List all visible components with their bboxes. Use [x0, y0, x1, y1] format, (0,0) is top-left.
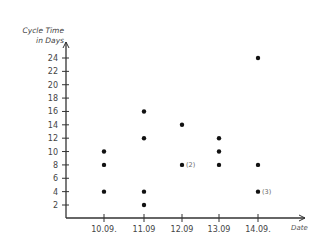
y-tick-label: 6 — [53, 174, 58, 183]
x-tick-label: 11.09 — [133, 225, 156, 234]
y-tick-label: 22 — [48, 67, 58, 76]
y-tick-label: 14 — [48, 121, 58, 130]
data-point — [102, 189, 106, 193]
x-tick-label: 10.09. — [91, 225, 116, 234]
data-point — [142, 109, 146, 113]
data-point — [102, 149, 106, 153]
point-count-annotation: (2) — [186, 161, 195, 169]
data-point — [256, 163, 260, 167]
y-tick-label: 4 — [53, 188, 58, 197]
point-count-annotation: (3) — [262, 188, 271, 196]
data-point — [256, 189, 260, 193]
data-point — [217, 163, 221, 167]
y-tick-label: 16 — [48, 107, 58, 116]
y-tick-label: 20 — [48, 81, 58, 90]
data-point — [180, 123, 184, 127]
x-ticks: 10.09.11.0912.0913.0914.09. — [91, 214, 270, 234]
y-tick-label: 8 — [53, 161, 58, 170]
data-points: (2)(3) — [102, 56, 271, 207]
data-point — [142, 136, 146, 140]
x-tick-label: 13.09 — [208, 225, 231, 234]
y-tick-label: 12 — [48, 134, 58, 143]
x-tick-label: 14.09. — [245, 225, 270, 234]
scatter-chart: 24681012141618202224 10.09.11.0912.0913.… — [0, 0, 323, 244]
data-point — [217, 149, 221, 153]
x-tick-label: 12.09 — [171, 225, 194, 234]
data-point — [102, 163, 106, 167]
y-tick-label: 18 — [48, 94, 58, 103]
data-point — [180, 163, 184, 167]
y-tick-label: 10 — [48, 148, 58, 157]
data-point — [142, 189, 146, 193]
y-tick-label: 2 — [53, 201, 58, 210]
data-point — [142, 203, 146, 207]
y-tick-label: 24 — [48, 54, 58, 63]
data-point — [256, 56, 260, 60]
data-point — [217, 136, 221, 140]
